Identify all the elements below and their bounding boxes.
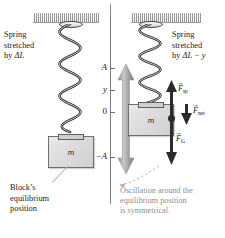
net-force-label: →Fnet [193, 106, 205, 115]
spring-label-left-line2: stretched [4, 41, 34, 50]
spring-label-right-line3-pre: by [172, 51, 182, 60]
figure-canvas: Spring stretched by ΔL m Block’s equilib… [0, 0, 225, 238]
axis-tick-label-A: A [92, 62, 107, 72]
axis-tick-A [110, 68, 115, 69]
axis-tick-y [110, 90, 115, 91]
caption-line1: Oscillation around the [120, 186, 193, 195]
block-equilibrium-note: Block’s equilibrium position [10, 183, 72, 215]
spring-label-left-delta-l: ΔL [14, 51, 24, 60]
spring-label-right-line1: Spring [172, 30, 194, 39]
block-left-mass-symbol: m [68, 147, 75, 157]
spring-right [133, 24, 167, 108]
spring-left [53, 24, 87, 136]
spring-stretch-label-left: Spring stretched by ΔL [4, 30, 52, 62]
axis-tick-label-negative-A: −A [86, 151, 107, 161]
axis-tick-zero [110, 112, 115, 113]
spring-label-left-line3-pre: by [4, 51, 14, 60]
axis-tick-label-zero: 0 [92, 106, 107, 116]
spring-force-vector-arrow: → [177, 79, 184, 87]
spring-force-label: →Fsp [178, 84, 188, 93]
block-note-line1: Block’s [10, 183, 36, 192]
block-note-leader-line [52, 166, 68, 183]
net-force-subscript: net [198, 110, 205, 116]
spring-label-left-line1: Spring [4, 30, 26, 39]
block-note-line3: position [10, 204, 37, 213]
gravity-force-vector [165, 120, 178, 166]
block-note-line2: equilibrium [10, 194, 49, 203]
block-left-top-plate [58, 134, 84, 140]
axis-tick-negative-A [110, 157, 115, 158]
gravity-force-subscript: G [181, 138, 185, 144]
axis-tick-label-y: y [92, 84, 107, 94]
block-right-mass-symbol: m [148, 115, 155, 125]
spring-label-right-line2: stretched [172, 41, 202, 50]
oscillation-caption: Oscillation around the equilibrium posit… [120, 186, 223, 217]
caption-line3: is symmetrical. [120, 206, 170, 215]
spring-label-right-delta-l-minus-y: ΔL − y [182, 51, 205, 60]
gravity-force-vector-arrow: → [175, 129, 182, 137]
gravity-force-label: →FG [176, 134, 185, 143]
block-right-top-plate [138, 102, 164, 108]
axis-vertical-line [110, 14, 111, 204]
caption-line2: equilibrium position [120, 196, 187, 205]
net-force-vector-arrow: → [192, 101, 199, 109]
spring-stretch-label-right: Spring stretched by ΔL − y [172, 30, 224, 62]
spring-force-subscript: sp [183, 88, 188, 94]
